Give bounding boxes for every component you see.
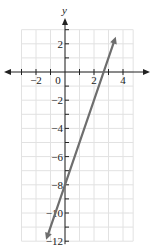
axes [4, 18, 150, 244]
x-tick-label: 2 [91, 74, 97, 86]
y-axis-label: y [61, 4, 67, 16]
grid [22, 30, 134, 242]
y-tick-label: 2 [58, 38, 64, 50]
x-tick-label: 0 [55, 74, 61, 86]
y-tick-label: −4 [51, 122, 63, 134]
y-tick-label: −6 [51, 151, 63, 163]
x-tick-label: 4 [120, 74, 126, 86]
x-axis-right-arrow-icon [143, 69, 150, 75]
y-tick-label: −2 [51, 94, 63, 106]
y-axis-arrow-icon [62, 18, 68, 25]
x-tick-label: −2 [30, 74, 42, 86]
graph: −20242−2−4−6−8−10−12 y [0, 0, 152, 249]
x-axis-left-arrow-icon [4, 69, 11, 75]
y-tick-label: −8 [51, 179, 63, 191]
data-line [45, 37, 117, 240]
line-series [48, 41, 114, 235]
